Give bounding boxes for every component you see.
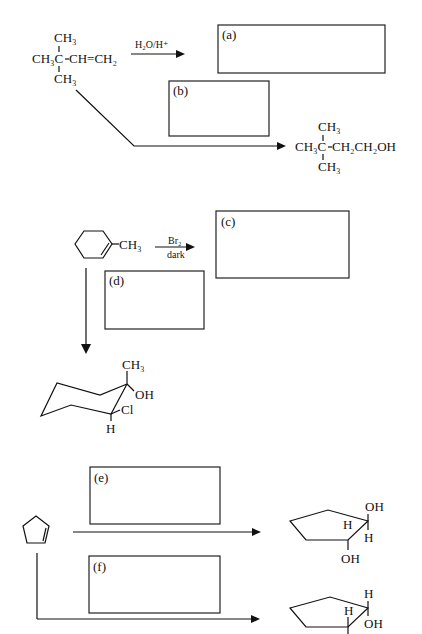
- reagent-br2: Br₂: [168, 235, 182, 246]
- cyclohexane-chair-icon: [41, 383, 127, 416]
- product-e-oh-bottom: OH: [341, 551, 360, 566]
- product-e-h-inner: H: [343, 517, 352, 532]
- cyclopentane-ring-icon: [290, 510, 368, 540]
- arrow-head-icon: [81, 344, 91, 354]
- product-3-3-dimethyl-1-butanol: CH₃ CH₃C CH₂CH₂OH CH₃: [295, 119, 396, 174]
- product1-main-left: CH₃C: [295, 139, 326, 154]
- reactant2-methyl: CH₃: [119, 237, 142, 252]
- reactant-3-3-dimethyl-1-butene: CH₃ CH₃C CH=CH₂ CH₃: [32, 30, 117, 86]
- cyclohexene-ring-icon: [75, 231, 112, 258]
- reactant1-main-right: CH=CH₂: [69, 51, 117, 66]
- arrow-head-icon: [277, 142, 286, 150]
- reagent-dark: dark: [167, 249, 185, 260]
- answer-box-f[interactable]: [89, 556, 220, 613]
- product-f-h-inner: H: [344, 603, 353, 618]
- product-trans-halohydrin: H OH H: [290, 586, 383, 634]
- double-bond: [101, 243, 109, 255]
- reactant1-bottom-methyl: CH₃: [54, 71, 77, 86]
- product1-bottom-methyl: CH₃: [318, 159, 341, 174]
- product-e-h-top: H: [364, 530, 373, 545]
- reactant-1-methylcyclohexene: CH₃: [75, 231, 142, 258]
- bond: [127, 384, 134, 391]
- box-e-label: (e): [94, 470, 108, 485]
- product2-hydrogen: H: [106, 421, 115, 436]
- arrow-head-icon: [176, 50, 185, 58]
- box-f-label: (f): [93, 559, 106, 574]
- box-c-label: (c): [221, 214, 235, 229]
- product2-hydroxyl: OH: [135, 387, 154, 402]
- cyclopentane-ring-icon: [290, 597, 368, 627]
- arrow-head-icon: [186, 243, 195, 251]
- box-b-label: (b): [173, 83, 188, 98]
- reactant1-top-methyl: CH₃: [54, 30, 77, 45]
- reactant-cyclopentene: [23, 516, 49, 543]
- reaction-scheme: CH₃ CH₃C CH=CH₂ CH₃ H₂O/H⁺ (a) (b) CH₃ C…: [0, 0, 422, 634]
- product-f-h-top: H: [364, 586, 373, 601]
- product-cis-diol: OH H H OH: [290, 499, 384, 566]
- reactant1-main-left: CH₃C: [32, 51, 63, 66]
- product-chlorohydrin-chair: CH₃ OH Cl H: [41, 357, 154, 436]
- box-a-label: (a): [222, 27, 236, 42]
- product-f-oh-bottom: OH: [364, 616, 383, 631]
- product-e-oh-top: OH: [365, 499, 384, 514]
- product1-top-methyl: CH₃: [318, 119, 341, 134]
- product2-methyl: CH₃: [122, 357, 145, 372]
- product1-main-right: CH₂CH₂OH: [332, 139, 396, 154]
- reagent-h2o-h-plus: H₂O/H⁺: [135, 39, 168, 50]
- arrow-head-icon: [252, 528, 261, 536]
- answer-box-c[interactable]: [216, 211, 349, 278]
- product2-chloro: Cl: [121, 402, 134, 417]
- box-d-label: (d): [109, 273, 124, 288]
- answer-box-a[interactable]: [218, 25, 385, 73]
- answer-box-e[interactable]: [90, 467, 220, 524]
- arrow-head-icon: [251, 615, 260, 623]
